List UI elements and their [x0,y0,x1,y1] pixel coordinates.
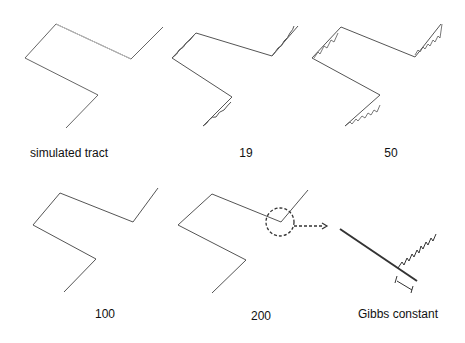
label-19: 19 [239,146,252,160]
tract-diagrams [0,0,465,343]
label-simulated-tract: simulated tract [30,146,108,160]
label-gibbs-constant: Gibbs constant [358,307,438,321]
label-200: 200 [251,309,271,323]
tract-19-shape [172,26,298,126]
label-50: 50 [384,146,397,160]
figure: simulated tract 19 50 100 200 Gibbs cons… [0,0,465,343]
tract-100-shape [33,188,158,292]
label-100: 100 [95,307,115,321]
tract-200-shape [178,190,327,293]
simulated-tract-shape [25,24,163,128]
gibbs-constant-shape [340,229,436,293]
tract-50-shape [312,24,442,126]
